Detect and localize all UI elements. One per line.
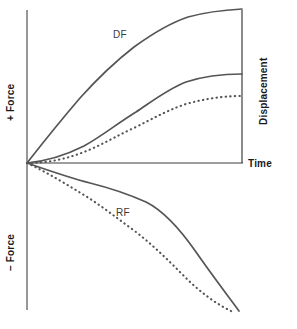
axis-label-negative-force: – Force xyxy=(5,234,16,271)
axis-label-time: Time xyxy=(248,158,272,169)
curve-label-rf: RF xyxy=(116,207,130,218)
negative-curves-group xyxy=(27,163,239,312)
curve-df-upper-solid xyxy=(27,9,242,163)
curve-rf-lower-dotted xyxy=(27,163,233,312)
axis-label-positive-force: + Force xyxy=(5,84,16,121)
curve-df-middle-solid xyxy=(27,74,242,163)
positive-curves-group xyxy=(27,9,242,163)
curve-label-df: DF xyxy=(113,29,127,40)
curve-df-lower-dotted xyxy=(27,96,242,163)
caption-partial-text xyxy=(6,322,291,329)
axis-label-displacement: Displacement xyxy=(258,58,269,125)
curve-rf-upper-solid xyxy=(27,163,239,311)
figure-container: + Force – Force Displacement Time DF RF xyxy=(0,0,297,329)
